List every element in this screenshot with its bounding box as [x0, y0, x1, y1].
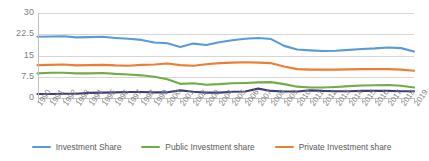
legend-line-icon	[141, 146, 160, 149]
legend-item[interactable]: Private Investment share	[275, 142, 392, 152]
legend-item[interactable]: Investment Share	[32, 142, 122, 152]
series-line-0	[38, 36, 415, 51]
y-tick-label: 7.5	[2, 72, 34, 81]
y-tick-label: 30	[2, 8, 34, 17]
legend-label: Public Investment share	[165, 142, 254, 152]
chart-legend: Investment SharePublic Investment shareP…	[0, 139, 423, 155]
series-line-2	[38, 62, 415, 71]
legend-label: Private Investment share	[299, 142, 392, 152]
legend-item[interactable]: Public Investment share	[141, 142, 254, 152]
legend-label: Investment Share	[56, 142, 122, 152]
series-line-1	[38, 73, 415, 88]
series-lines	[38, 36, 415, 94]
y-tick-label: 22.5	[2, 29, 34, 38]
y-tick-label: 15	[2, 51, 34, 60]
legend-line-icon	[275, 146, 294, 149]
series-line-3	[38, 89, 415, 94]
y-axis: 07.51522.530	[0, 0, 34, 110]
legend-line-icon	[32, 146, 51, 149]
y-tick-label: 0	[2, 93, 34, 102]
